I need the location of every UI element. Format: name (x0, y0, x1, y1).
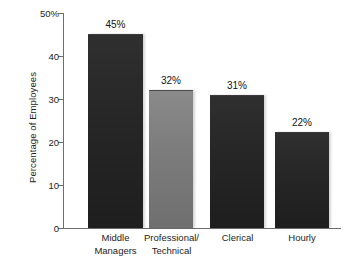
x-label-line2: Technical (134, 245, 209, 258)
x-label-line1: Middle (102, 232, 130, 243)
bar-value-professional-technical: 32% (145, 75, 197, 86)
bar-middle-managers[interactable] (88, 34, 143, 228)
bar-value-hourly: 22% (275, 117, 329, 128)
bar-clerical[interactable] (210, 95, 264, 228)
bar-chart: Percentage of Employees 50% 40 30 20 10 … (0, 0, 347, 264)
x-label-line1: Professional/ (144, 232, 199, 243)
bar-value-middle-managers: 45% (88, 19, 143, 30)
x-label-professional-technical: Professional/ Technical (134, 232, 209, 257)
bar-hourly[interactable] (275, 132, 329, 228)
plot-area: 45% Middle Managers 32% Professional/ Te… (0, 0, 347, 264)
bar-value-clerical: 31% (210, 80, 264, 91)
x-label-clerical: Clerical (205, 232, 270, 245)
x-label-line1: Hourly (288, 232, 315, 243)
x-label-hourly: Hourly (272, 232, 332, 245)
bar-professional-technical[interactable] (149, 90, 193, 228)
x-label-line1: Clerical (222, 232, 254, 243)
